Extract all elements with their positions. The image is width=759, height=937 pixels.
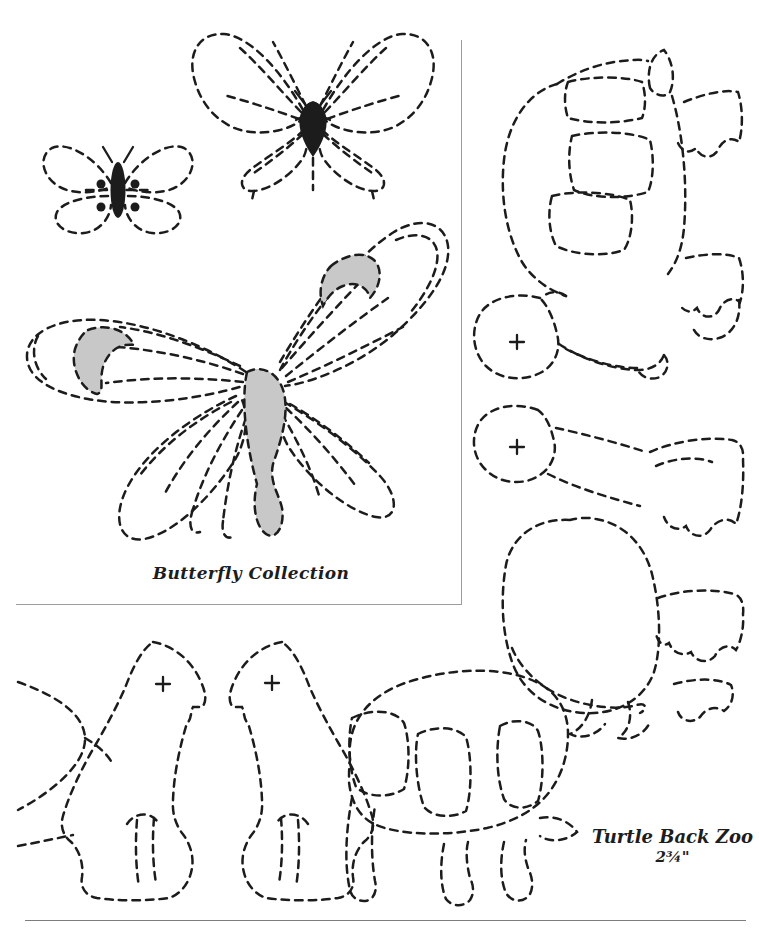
- wing-lower-left: [119, 396, 246, 539]
- turtle-side-view-bottom: [346, 671, 577, 905]
- body: [111, 162, 126, 218]
- vein: [286, 408, 355, 485]
- tail-notch: [252, 191, 254, 200]
- antenna-left: [103, 147, 112, 162]
- bottom-rule: [25, 920, 746, 921]
- vein: [102, 346, 243, 374]
- wing-margin: [396, 235, 437, 313]
- butterfly-large-shaded: [27, 223, 448, 539]
- shell-plate: [349, 712, 408, 796]
- shell-plate: [416, 728, 471, 816]
- tail: [649, 50, 673, 95]
- spot: [97, 203, 106, 212]
- shell-outline: [349, 671, 568, 834]
- spot: [131, 180, 140, 189]
- wing-upper-right: [323, 34, 434, 132]
- rear-foot: [693, 300, 739, 339]
- tail: [540, 817, 577, 840]
- turtle-side-view-upper: [474, 50, 743, 379]
- shell-plate: [569, 133, 653, 198]
- wing-lower-left: [56, 196, 111, 233]
- turtle-zoo-title: Turtle Back Zoo: [592, 826, 753, 847]
- eye-mark: [510, 335, 524, 349]
- vein: [288, 327, 403, 382]
- wing-margin: [34, 336, 46, 379]
- shaded-crescent-right: [321, 255, 380, 306]
- eye-mark: [265, 676, 279, 690]
- butterfly-small: [43, 146, 192, 233]
- vein: [106, 378, 243, 383]
- pattern-page: Butterfly Collection Turtle Back Zoo 2¾": [0, 0, 759, 937]
- neck-top: [556, 428, 646, 452]
- wing-finger: [190, 509, 200, 532]
- shell-left-arc: [503, 84, 566, 296]
- pattern-art: [0, 0, 759, 937]
- eye-mark: [510, 440, 524, 454]
- outline: [62, 642, 205, 900]
- partial-shell-arcs: [18, 682, 111, 846]
- leg-line: [153, 818, 156, 883]
- wing-lower-right: [125, 196, 180, 233]
- shell-plate: [549, 193, 632, 255]
- shell-plate: [565, 78, 645, 123]
- chin-line: [548, 474, 640, 506]
- rear-foot: [674, 680, 733, 721]
- spot: [131, 203, 140, 212]
- bird-head-piece-left: [62, 642, 205, 900]
- front-leg: [650, 439, 743, 536]
- wing-finger: [223, 521, 235, 538]
- vein: [282, 414, 320, 499]
- turtle-size-label: 2¾": [585, 848, 759, 866]
- vein: [286, 298, 388, 376]
- front-leg: [678, 91, 742, 156]
- shell-plate: [497, 721, 542, 807]
- vein: [120, 327, 240, 366]
- body: [299, 101, 326, 157]
- leg-line: [279, 818, 282, 883]
- turtle-zoo-label: Turtle Back Zoo 2¾": [585, 826, 759, 866]
- head: [474, 406, 555, 482]
- rear-leg: [679, 254, 743, 316]
- arc: [18, 835, 73, 846]
- wing-upper-left: [27, 320, 246, 403]
- wing-upper-left: [192, 34, 303, 132]
- mid-leg: [441, 842, 473, 905]
- butterfly-collection-label: Butterfly Collection: [96, 563, 406, 583]
- wing-upper-right: [280, 223, 448, 386]
- turtle-side-view-middle: [474, 406, 743, 739]
- shell: [503, 518, 659, 713]
- butterfly-medium: [192, 34, 433, 200]
- flipper-bottom: [566, 349, 637, 368]
- vein: [140, 402, 231, 475]
- front-foot: [618, 702, 650, 739]
- tail-notch: [372, 191, 374, 200]
- antenna-right: [124, 147, 133, 162]
- rear-leg: [656, 591, 743, 662]
- arc: [18, 682, 85, 810]
- shaded-crescent-left: [74, 327, 134, 394]
- shell-right: [668, 96, 685, 274]
- leg-line: [296, 820, 299, 887]
- shaded-body: [244, 369, 285, 536]
- front-flipper: [559, 344, 664, 370]
- eye-mark: [156, 677, 170, 691]
- spot: [97, 180, 106, 189]
- leg-line: [136, 820, 139, 887]
- rear-leg: [501, 840, 532, 901]
- leg-inner-line: [656, 459, 712, 466]
